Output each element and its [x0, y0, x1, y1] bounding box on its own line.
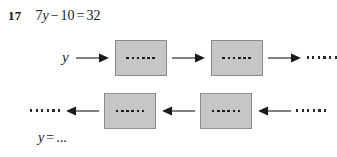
backward-flow-row: [30, 88, 326, 134]
equation-result: 32: [86, 8, 100, 23]
arrow-right-icon-1: [76, 52, 110, 64]
forward-flow-row: y: [62, 35, 337, 81]
dot: [238, 57, 241, 60]
dot: [248, 57, 251, 60]
dot: [142, 57, 145, 60]
dot: [131, 110, 134, 113]
backward-start-input-blank[interactable]: [296, 109, 326, 112]
dot: [243, 57, 246, 60]
dot: [329, 56, 331, 58]
dot: [126, 110, 129, 113]
dot: [312, 56, 314, 58]
forward-box-2[interactable]: [211, 40, 263, 76]
equation-constant: 10: [61, 8, 75, 23]
dot: [335, 56, 337, 58]
backward-box-2[interactable]: [200, 93, 252, 129]
arrow-left-icon-2: [161, 105, 195, 117]
dot: [296, 109, 298, 111]
dot: [217, 110, 220, 113]
equation-variable: y: [42, 8, 48, 23]
forward-box-1-dots: [126, 57, 155, 60]
dot: [36, 109, 38, 111]
forward-box-2-dots: [222, 57, 251, 60]
dot: [58, 109, 60, 111]
dot: [47, 109, 49, 111]
answer-equals-operator: =: [44, 130, 56, 145]
dot: [222, 57, 225, 60]
arrow-right-icon-3: [268, 52, 302, 64]
arrow-left-icon-1: [65, 105, 99, 117]
question-equation: 7y−10=32: [35, 8, 100, 24]
dot: [307, 56, 309, 58]
equation-minus-operator: −: [49, 8, 61, 23]
dot: [137, 57, 140, 60]
question-header: 17 7y−10=32: [8, 8, 100, 24]
answer-blank[interactable]: ...: [56, 130, 67, 145]
dot: [121, 110, 124, 113]
dot: [318, 109, 320, 111]
dot: [233, 57, 236, 60]
dot: [307, 109, 309, 111]
dot: [227, 110, 230, 113]
dot: [222, 110, 225, 113]
dot: [324, 109, 326, 111]
forward-box-1[interactable]: [115, 40, 167, 76]
dot: [126, 57, 129, 60]
dot: [318, 56, 320, 58]
backward-box-1[interactable]: [104, 93, 156, 129]
arrow-right-icon-2: [172, 52, 206, 64]
dot: [212, 110, 215, 113]
dot: [228, 57, 231, 60]
equation-equals-operator: =: [75, 8, 87, 23]
dot: [238, 110, 241, 113]
dot: [152, 57, 155, 60]
forward-end-answer-blank[interactable]: [307, 56, 337, 59]
backward-end-answer-blank[interactable]: [30, 109, 60, 112]
dot: [132, 57, 135, 60]
forward-start-label: y: [62, 50, 69, 67]
dot: [52, 109, 54, 111]
dot: [41, 109, 43, 111]
answer-line[interactable]: y=...: [38, 130, 67, 146]
arrow-left-icon-3: [257, 105, 291, 117]
dot: [323, 56, 325, 58]
dot: [147, 57, 150, 60]
dot: [233, 110, 236, 113]
backward-box-1-dots: [116, 110, 145, 113]
backward-box-2-dots: [212, 110, 241, 113]
dot: [313, 109, 315, 111]
dot: [116, 110, 119, 113]
dot: [142, 110, 145, 113]
dot: [137, 110, 140, 113]
question-number: 17: [8, 8, 21, 24]
dot: [30, 109, 32, 111]
dot: [302, 109, 304, 111]
